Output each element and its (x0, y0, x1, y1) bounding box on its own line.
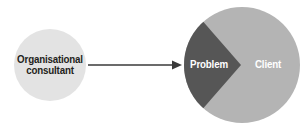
consultant-label-line2: consultant (26, 64, 74, 76)
diagram-canvas: Organisationalconsultant Problem Client (0, 0, 307, 129)
problem-label: Problem (188, 59, 231, 70)
connector-arrow (88, 61, 182, 70)
arrow-head-icon (172, 61, 182, 70)
client-label: Client (248, 59, 289, 70)
consultant-label: Organisationalconsultant (12, 54, 88, 76)
